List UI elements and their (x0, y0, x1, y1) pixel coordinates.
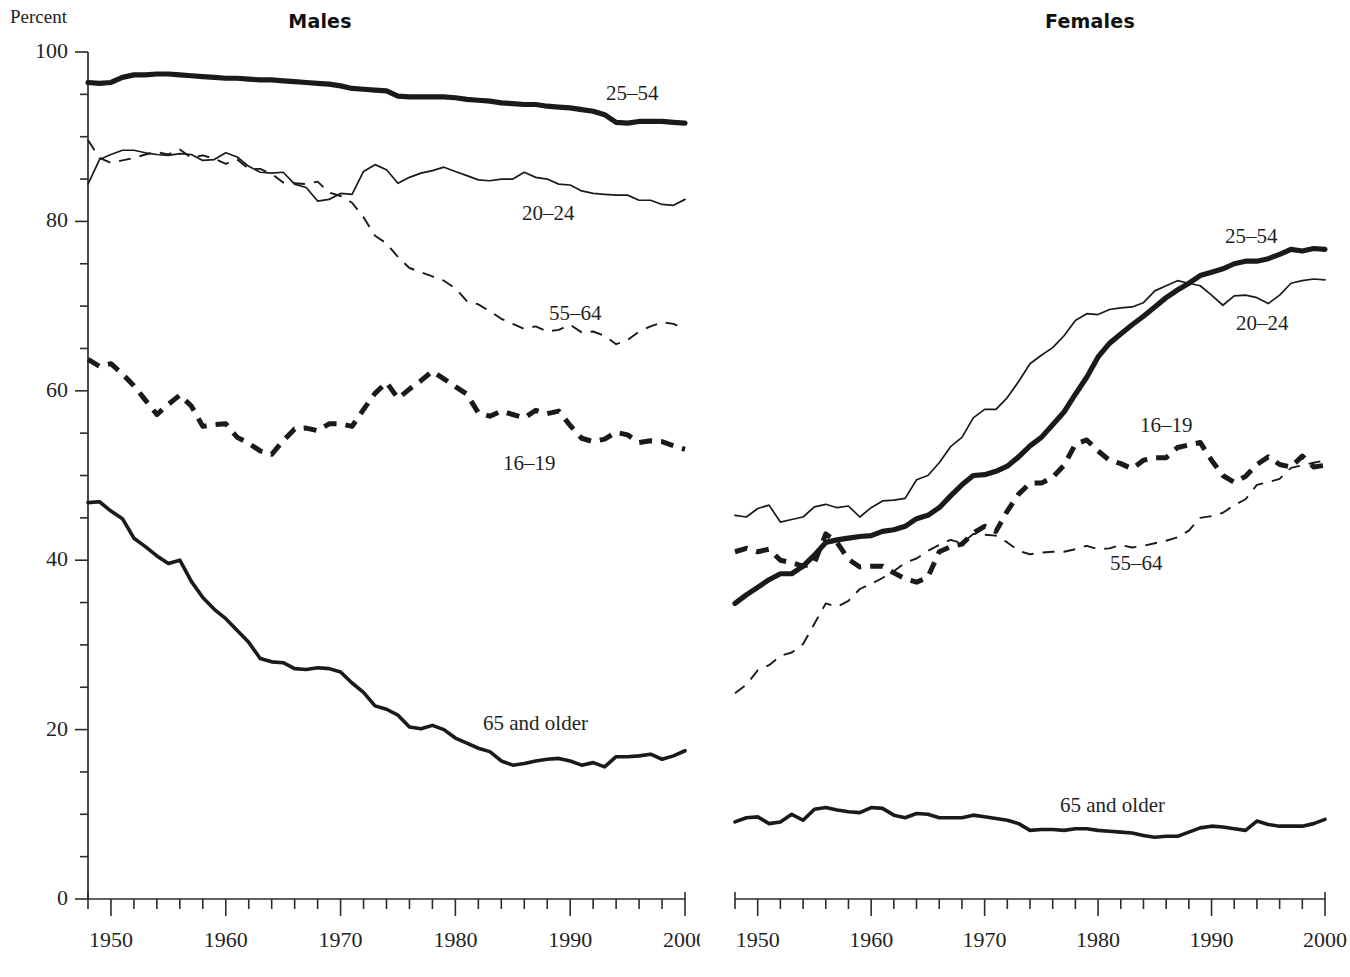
y-tick-label: 0 (57, 885, 68, 910)
x-tick-label: 1950 (89, 927, 133, 952)
y-tick-label: 60 (46, 377, 68, 402)
chart-plot-males: 02040608010019501960197019801990200025–5… (0, 0, 700, 977)
x-tick-label: 1980 (1076, 927, 1120, 952)
y-tick-label: 100 (35, 38, 68, 63)
figure-root: Percent Males 02040608010019501960197019… (0, 0, 1350, 977)
series-line-25-54 (88, 74, 685, 123)
panel-females: Females 19501960197019801990200025–5420–… (700, 0, 1350, 977)
series-line-65-and-older (735, 808, 1325, 838)
series-line-65-and-older (88, 502, 685, 767)
series-line-16-19 (88, 359, 685, 454)
series-label-a5564: 55–64 (1110, 551, 1163, 575)
x-tick-label: 2000 (663, 927, 700, 952)
y-tick-label: 40 (46, 546, 68, 571)
series-line-55-64 (735, 460, 1325, 693)
x-tick-label: 1970 (319, 927, 363, 952)
x-tick-label: 2000 (1303, 927, 1347, 952)
series-label-a1619: 16–19 (503, 451, 556, 475)
series-line-16-19 (735, 440, 1325, 582)
series-label-a5564: 55–64 (549, 301, 602, 325)
series-label-a2024: 20–24 (1236, 311, 1289, 335)
series-line-20-24 (88, 150, 685, 205)
panel-males: Males 0204060801001950196019701980199020… (0, 0, 700, 977)
x-tick-label: 1970 (963, 927, 1007, 952)
y-tick-label: 80 (46, 207, 68, 232)
x-tick-label: 1960 (204, 927, 248, 952)
chart-plot-females: 19501960197019801990200025–5420–2416–195… (700, 0, 1350, 977)
series-label-a1619: 16–19 (1140, 413, 1193, 437)
series-label-a2024: 20–24 (522, 201, 575, 225)
series-line-25-54 (735, 249, 1325, 604)
x-tick-label: 1990 (548, 927, 592, 952)
series-label-a65: 65 and older (1060, 793, 1165, 817)
series-label-a2554: 25–54 (1225, 224, 1278, 248)
x-tick-label: 1980 (433, 927, 477, 952)
y-tick-label: 20 (46, 716, 68, 741)
series-label-a2554: 25–54 (606, 81, 659, 105)
x-tick-label: 1950 (736, 927, 780, 952)
x-tick-label: 1990 (1190, 927, 1234, 952)
x-tick-label: 1960 (849, 927, 893, 952)
series-label-a65: 65 and older (483, 711, 588, 735)
